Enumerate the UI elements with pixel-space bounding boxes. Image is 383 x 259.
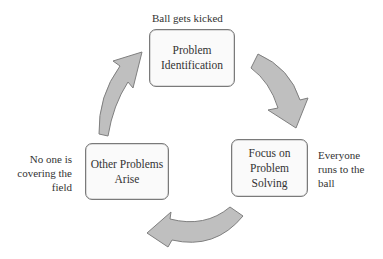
arrow-right-to-left (147, 207, 243, 247)
annotation-top: Ball gets kicked (152, 11, 223, 25)
arrow-top-to-right (251, 54, 308, 128)
node-other-problems-arise: Other Problems Arise (85, 143, 169, 200)
annotation-right: Everyone runs to the ball (318, 148, 364, 190)
node-label: Other Problems Arise (91, 157, 164, 187)
annotation-left: No one is covering the field (4, 152, 72, 194)
node-label: Focus on Problem Solving (232, 146, 307, 191)
node-focus-on-problem-solving: Focus on Problem Solving (231, 139, 308, 197)
node-label: Problem Identification (161, 43, 223, 73)
arrow-left-to-top (99, 52, 142, 136)
node-problem-identification: Problem Identification (149, 29, 235, 87)
